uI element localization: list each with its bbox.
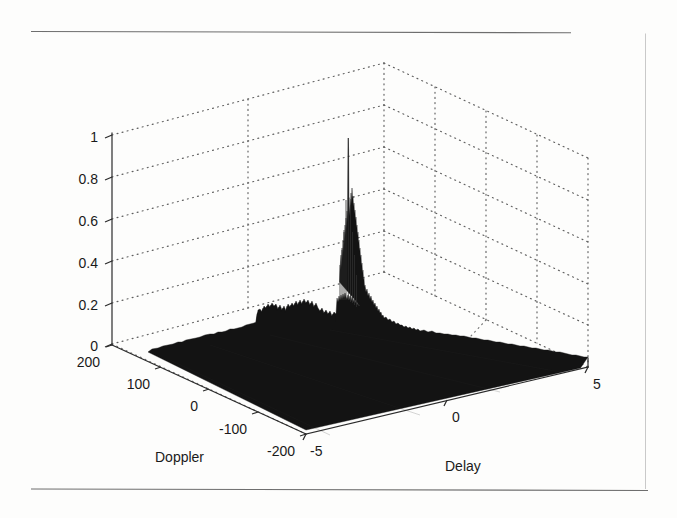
delay-tick-label-m5: -5 [310, 443, 323, 459]
z-tick-0.8 [105, 177, 112, 180]
ambiguity-function-surface-plot: 1 0.8 0.6 0.4 0.2 0 200 100 0 -100 -200 … [0, 0, 677, 518]
doppler-tick-label-100: 100 [127, 376, 151, 392]
z-tick-0.6 [105, 219, 112, 222]
doppler-tick-m100 [252, 412, 258, 414]
z-tick-label-1: 1 [90, 129, 98, 145]
back-right-wall-grid [384, 63, 588, 367]
z-tick-label-0.2: 0.2 [79, 297, 99, 313]
z-tick-0.4 [105, 261, 112, 264]
z-tick-0.2 [105, 303, 112, 306]
doppler-tick-label-m200: -200 [267, 443, 295, 459]
ambiguity-surface [148, 138, 588, 435]
z-tick-1.0 [105, 135, 112, 138]
delay-tick-label-5: 5 [593, 376, 601, 392]
doppler-tick-label-200: 200 [77, 354, 101, 370]
z-tick-label-0.6: 0.6 [79, 213, 99, 229]
doppler-tick-label-0: 0 [190, 398, 198, 414]
delay-tick-label-0: 0 [452, 409, 460, 425]
z-axis-ticks [105, 135, 112, 347]
z-tick-label-0: 0 [90, 338, 98, 354]
top-page-rule [31, 32, 571, 33]
z-tick-label-0.4: 0.4 [79, 255, 99, 271]
doppler-tick-0 [203, 389, 209, 391]
delay-axis-title: Delay [445, 458, 481, 474]
z-tick-label-0.8: 0.8 [79, 171, 99, 187]
z-axis-tick-labels: 1 0.8 0.6 0.4 0.2 0 [79, 129, 99, 354]
doppler-tick-100 [155, 367, 161, 369]
figure-page: 1 0.8 0.6 0.4 0.2 0 200 100 0 -100 -200 … [0, 0, 677, 518]
doppler-tick-label-m100: -100 [219, 421, 247, 437]
surface-body [148, 138, 588, 430]
bottom-page-rule [31, 489, 648, 491]
doppler-axis-title: Doppler [155, 449, 204, 465]
